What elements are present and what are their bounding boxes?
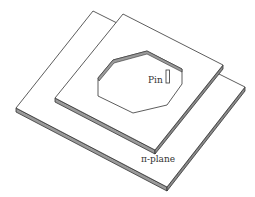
pin <box>166 70 170 83</box>
two-plate-diagram: Pin π-plane <box>0 0 255 197</box>
pin-label: Pin <box>148 75 163 85</box>
pi-plane-label: π-plane <box>141 154 175 164</box>
